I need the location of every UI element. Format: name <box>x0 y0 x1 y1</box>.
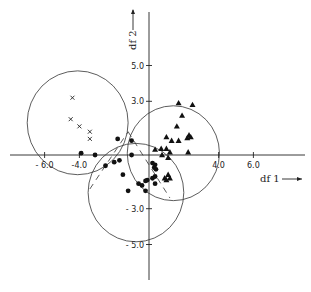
dot-marker-icon <box>150 161 155 166</box>
triangle-marker-icon <box>185 149 191 154</box>
dot-marker-icon <box>112 160 117 165</box>
x-axis-label: df 1 <box>260 173 280 184</box>
dot-marker-icon <box>154 167 159 172</box>
group-circles <box>27 71 219 242</box>
x-tick-label: -4.0 <box>72 161 88 170</box>
dot-marker-icon <box>129 138 134 143</box>
dot-marker-icon <box>93 153 98 158</box>
scatter-chart: - 6.0-4.04.06.0 5.03.0- 3.0- 5.0 df 1 df… <box>0 0 311 292</box>
triangle-marker-icon <box>176 137 182 142</box>
y-axis-arrowhead-icon <box>131 9 135 14</box>
dot-marker-icon <box>79 151 84 156</box>
dot-marker-icon <box>129 153 134 158</box>
dashed-line <box>90 132 128 189</box>
dot-marker-icon <box>117 158 122 163</box>
axes <box>10 12 305 280</box>
dot-marker-icon <box>140 183 145 188</box>
y-tick-label: 5.0 <box>131 62 144 71</box>
y-axis-label: df 2 <box>127 30 138 50</box>
x-axis-label-group: df 1 <box>260 173 302 184</box>
dot-marker-icon <box>153 174 158 179</box>
cross-marker-icon <box>69 117 73 121</box>
y-axis-arrow-group <box>131 9 135 30</box>
dot-marker-icon <box>143 179 148 184</box>
data-points <box>69 96 196 193</box>
circle-cross-group <box>27 71 128 175</box>
dot-marker-icon <box>126 188 131 193</box>
triangle-marker-icon <box>152 146 158 151</box>
cross-marker-icon <box>88 137 92 141</box>
dot-marker-icon <box>143 188 148 193</box>
dot-marker-icon <box>103 163 108 168</box>
y-tick-label: - 3.0 <box>126 205 144 214</box>
cross-marker-icon <box>88 130 92 134</box>
triangle-marker-icon <box>169 137 175 142</box>
dot-marker-icon <box>121 172 126 177</box>
cross-marker-icon <box>77 124 81 128</box>
triangle-marker-icon <box>158 146 164 151</box>
dot-marker-icon <box>115 136 120 141</box>
y-axis-label-group: df 2 <box>127 30 138 50</box>
triangle-marker-icon <box>163 146 169 151</box>
triangle-marker-icon <box>179 112 185 117</box>
triangle-marker-icon <box>176 100 182 105</box>
x-tick-label: 6.0 <box>247 161 260 170</box>
cross-marker-icon <box>70 96 74 100</box>
dot-marker-icon <box>153 181 158 186</box>
triangle-marker-icon <box>174 123 180 128</box>
y-tick-label: 3.0 <box>131 97 144 106</box>
x-axis-arrowhead-icon <box>297 177 302 181</box>
triangle-marker-icon <box>163 134 169 139</box>
triangle-marker-icon <box>190 102 196 107</box>
